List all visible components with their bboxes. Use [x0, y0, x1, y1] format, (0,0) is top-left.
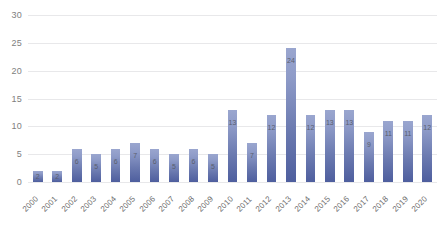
bar-chart: 051015202530 226567656513712241213139111… [0, 0, 442, 226]
x-axis-tick-label: 2018 [371, 194, 390, 213]
bar-value-label: 9 [367, 141, 371, 148]
bar[interactable] [286, 48, 296, 182]
bar-value-label: 6 [153, 158, 157, 165]
bar-slot: 5 [164, 15, 183, 182]
y-axis-tick-label: 0 [0, 177, 22, 187]
x-axis-tick-label: 2000 [21, 194, 40, 213]
bar-value-label: 13 [326, 119, 334, 126]
x-axis-tick-label: 2014 [293, 194, 312, 213]
bar-value-label: 2 [55, 173, 59, 180]
bar-slot: 13 [223, 15, 242, 182]
bar-value-label: 5 [172, 163, 176, 170]
bar-slot: 6 [184, 15, 203, 182]
bar-value-label: 5 [211, 163, 215, 170]
bar-slot: 2 [28, 15, 47, 182]
y-axis-tick-label: 20 [0, 66, 22, 76]
bar-slot: 6 [145, 15, 164, 182]
y-axis-tick-label: 25 [0, 38, 22, 48]
bar-slot: 11 [398, 15, 417, 182]
x-axis-tick-label: 2006 [137, 194, 156, 213]
bar-value-label: 12 [423, 124, 431, 131]
y-axis-tick-label: 30 [0, 10, 22, 20]
x-axis-tick-label: 2004 [98, 194, 117, 213]
bar[interactable] [247, 143, 257, 182]
bar-value-label: 12 [306, 124, 314, 131]
bar[interactable] [150, 149, 160, 182]
x-axis-tick-label: 2020 [410, 194, 429, 213]
bar-slot: 11 [379, 15, 398, 182]
bar[interactable] [72, 149, 82, 182]
bar-slot: 12 [301, 15, 320, 182]
x-axis-tick-label: 2019 [391, 194, 410, 213]
bar-value-label: 11 [404, 130, 411, 137]
bar[interactable] [189, 149, 199, 182]
x-axis-tick-label: 2015 [313, 194, 332, 213]
bar-value-label: 6 [192, 158, 196, 165]
x-axis-tick-label: 2012 [254, 194, 273, 213]
x-axis-tick-label: 2005 [118, 194, 137, 213]
bar-value-label: 7 [250, 152, 254, 159]
bar[interactable] [130, 143, 140, 182]
x-axis-tick-label: 2003 [79, 194, 98, 213]
x-axis: 2000200120022003200420052006200720082009… [28, 182, 437, 226]
bar-slot: 9 [359, 15, 378, 182]
bar-value-label: 6 [114, 158, 118, 165]
x-axis-tick-label: 2017 [352, 194, 371, 213]
bar-value-label: 24 [287, 57, 295, 64]
x-axis-tick-label: 2013 [274, 194, 293, 213]
y-axis-tick-label: 15 [0, 94, 22, 104]
bar[interactable] [111, 149, 121, 182]
x-axis-tick-label: 2009 [196, 194, 215, 213]
bar-value-label: 12 [268, 124, 276, 131]
bar-value-label: 2 [36, 173, 40, 180]
bar-value-label: 7 [133, 152, 137, 159]
x-axis-tick-label: 2007 [157, 194, 176, 213]
x-axis-tick-label: 2008 [176, 194, 195, 213]
bar[interactable] [364, 132, 374, 182]
bar-slot: 12 [418, 15, 437, 182]
bar-value-label: 11 [385, 130, 392, 137]
x-axis-tick-label: 2010 [215, 194, 234, 213]
x-axis-tick-label: 2011 [235, 195, 254, 214]
bar-slot: 24 [281, 15, 300, 182]
bar-slot: 13 [340, 15, 359, 182]
y-axis-tick-label: 10 [0, 121, 22, 131]
bar-value-label: 13 [345, 119, 353, 126]
bar-slot: 12 [262, 15, 281, 182]
bar-value-label: 13 [229, 119, 237, 126]
x-axis-tick-label: 2016 [332, 194, 351, 213]
bar-slot: 2 [47, 15, 66, 182]
bar-slot: 6 [67, 15, 86, 182]
bar-slot: 5 [86, 15, 105, 182]
bar-value-label: 5 [94, 163, 98, 170]
bar-slot: 7 [242, 15, 261, 182]
y-axis-tick-label: 5 [0, 149, 22, 159]
bar-slot: 13 [320, 15, 339, 182]
bars-layer: 226567656513712241213139111112 [28, 15, 437, 182]
x-axis-tick-label: 2002 [59, 194, 78, 213]
bar-slot: 7 [125, 15, 144, 182]
x-axis-tick-label: 2001 [40, 194, 59, 213]
bar-slot: 6 [106, 15, 125, 182]
bar-slot: 5 [203, 15, 222, 182]
bar-value-label: 6 [75, 158, 79, 165]
